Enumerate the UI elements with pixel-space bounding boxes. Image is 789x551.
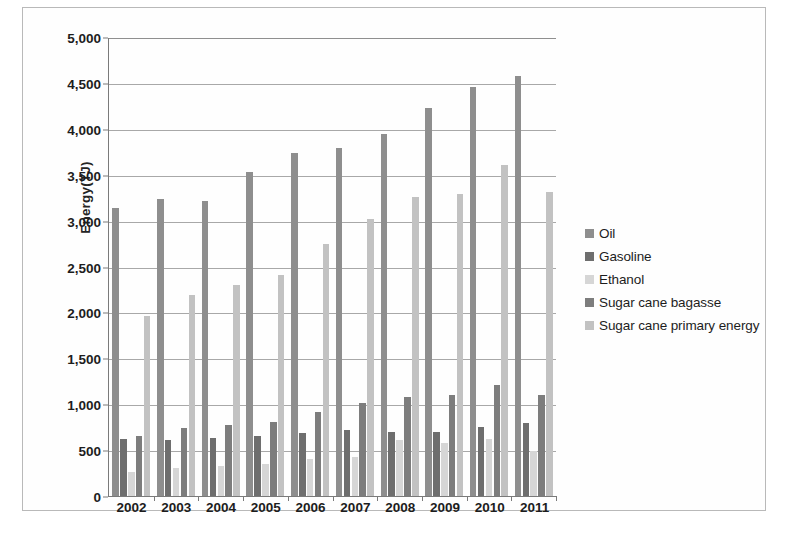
legend-item-label: Ethanol bbox=[599, 272, 644, 287]
bar bbox=[144, 316, 151, 496]
x-tick-label: 2011 bbox=[512, 500, 557, 515]
x-tick-label: 2008 bbox=[378, 500, 423, 515]
bar-groups bbox=[109, 38, 556, 496]
bar bbox=[315, 412, 322, 496]
y-tick-label: 5,000 bbox=[67, 31, 101, 46]
bar bbox=[449, 395, 456, 496]
bar bbox=[404, 397, 411, 496]
legend-item-label: Sugar cane bagasse bbox=[599, 295, 721, 310]
bar bbox=[270, 422, 277, 496]
bar-group-2003 bbox=[154, 38, 199, 496]
chart-figure: Energy(TJ) 05001,0001,5002,0002,5003,000… bbox=[22, 7, 766, 511]
legend-swatch-icon bbox=[585, 321, 594, 330]
plot-area: 05001,0001,5002,0002,5003,0003,5004,0004… bbox=[108, 38, 556, 497]
bar bbox=[501, 165, 508, 496]
bar bbox=[515, 76, 522, 496]
y-tick-label: 1,000 bbox=[67, 398, 101, 413]
bar bbox=[120, 439, 127, 496]
bar bbox=[246, 172, 253, 496]
bar-group-2002 bbox=[109, 38, 154, 496]
x-tick-label: 2004 bbox=[199, 500, 244, 515]
bar bbox=[470, 87, 477, 496]
bar-group-2010 bbox=[467, 38, 512, 496]
y-tick-label: 2,500 bbox=[67, 260, 101, 275]
bar bbox=[381, 134, 388, 496]
x-tick-label: 2010 bbox=[467, 500, 512, 515]
bar bbox=[412, 197, 419, 496]
bar bbox=[233, 285, 240, 496]
bar-group-2005 bbox=[243, 38, 288, 496]
bar bbox=[202, 201, 209, 496]
bar-group-2007 bbox=[333, 38, 378, 496]
x-tick-label: 2009 bbox=[423, 500, 468, 515]
bar-group-2006 bbox=[288, 38, 333, 496]
bar bbox=[478, 427, 485, 496]
legend-swatch-icon bbox=[585, 275, 594, 284]
y-tick-label: 4,000 bbox=[67, 122, 101, 137]
bar bbox=[352, 457, 359, 496]
bar bbox=[218, 466, 225, 496]
legend-item-1[interactable]: Gasoline bbox=[585, 245, 789, 268]
bar bbox=[486, 439, 493, 496]
bar bbox=[181, 428, 188, 496]
bar bbox=[262, 464, 269, 496]
y-tick-label: 2,000 bbox=[67, 306, 101, 321]
y-axis-title: Energy(TJ) bbox=[78, 128, 93, 268]
bar bbox=[538, 395, 545, 496]
bar bbox=[173, 468, 180, 496]
legend-item-4[interactable]: Sugar cane primary energy bbox=[585, 314, 789, 337]
bar bbox=[210, 438, 217, 496]
bar-group-2009 bbox=[422, 38, 467, 496]
bar bbox=[336, 148, 343, 496]
bar bbox=[323, 244, 330, 496]
x-tick-label: 2005 bbox=[243, 500, 288, 515]
chart-legend: OilGasolineEthanolSugar cane bagasseSuga… bbox=[585, 222, 789, 337]
bar bbox=[291, 153, 298, 496]
x-tick-label: 2007 bbox=[333, 500, 378, 515]
bar bbox=[425, 108, 432, 496]
bar bbox=[157, 199, 164, 496]
bar-group-2008 bbox=[377, 38, 422, 496]
legend-item-2[interactable]: Ethanol bbox=[585, 268, 789, 291]
bar bbox=[254, 436, 261, 496]
bar bbox=[136, 436, 143, 496]
bar bbox=[546, 192, 553, 496]
bar bbox=[457, 194, 464, 496]
bar bbox=[530, 451, 537, 496]
y-tick-label: 3,000 bbox=[67, 214, 101, 229]
y-tick-label: 500 bbox=[78, 444, 101, 459]
legend-swatch-icon bbox=[585, 252, 594, 261]
legend-swatch-icon bbox=[585, 298, 594, 307]
y-tick-label: 0 bbox=[93, 490, 101, 505]
y-tick-label: 3,500 bbox=[67, 168, 101, 183]
bar bbox=[307, 459, 314, 496]
figure-caption bbox=[24, 524, 764, 548]
bar bbox=[225, 425, 232, 496]
bar bbox=[344, 430, 351, 496]
bar bbox=[112, 208, 119, 496]
bar-group-2004 bbox=[198, 38, 243, 496]
y-tick-label: 4,500 bbox=[67, 76, 101, 91]
bar bbox=[523, 423, 530, 496]
bar bbox=[165, 440, 172, 496]
x-tick-label: 2002 bbox=[109, 500, 154, 515]
bar bbox=[396, 440, 403, 496]
bar bbox=[189, 295, 196, 496]
bar bbox=[278, 275, 285, 496]
bar bbox=[441, 443, 448, 496]
legend-item-0[interactable]: Oil bbox=[585, 222, 789, 245]
legend-item-label: Sugar cane primary energy bbox=[599, 318, 759, 333]
legend-item-label: Oil bbox=[599, 226, 615, 241]
bar bbox=[128, 472, 135, 496]
legend-item-3[interactable]: Sugar cane bagasse bbox=[585, 291, 789, 314]
legend-item-label: Gasoline bbox=[599, 249, 651, 264]
bar bbox=[433, 432, 440, 496]
bar bbox=[299, 433, 306, 496]
legend-swatch-icon bbox=[585, 229, 594, 238]
x-tick-label: 2003 bbox=[154, 500, 199, 515]
bar bbox=[359, 403, 366, 496]
bar bbox=[494, 385, 501, 496]
bar-group-2011 bbox=[511, 38, 556, 496]
bar bbox=[367, 219, 374, 496]
y-tick-label: 1,500 bbox=[67, 352, 101, 367]
